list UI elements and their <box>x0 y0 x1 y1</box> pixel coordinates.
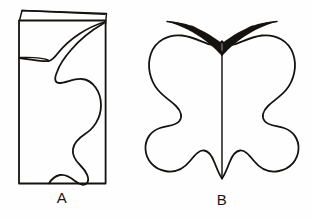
figure-root: A <box>0 0 313 221</box>
folded-flap <box>20 11 107 25</box>
panel-b: B <box>145 21 298 208</box>
panel-a: A <box>19 11 107 207</box>
panel-b-caption: B <box>217 191 227 208</box>
diagram-canvas: A <box>0 0 313 221</box>
panel-a-caption: A <box>57 189 67 206</box>
paper-rectangle <box>19 21 106 184</box>
half-butterfly-outline <box>20 22 105 185</box>
